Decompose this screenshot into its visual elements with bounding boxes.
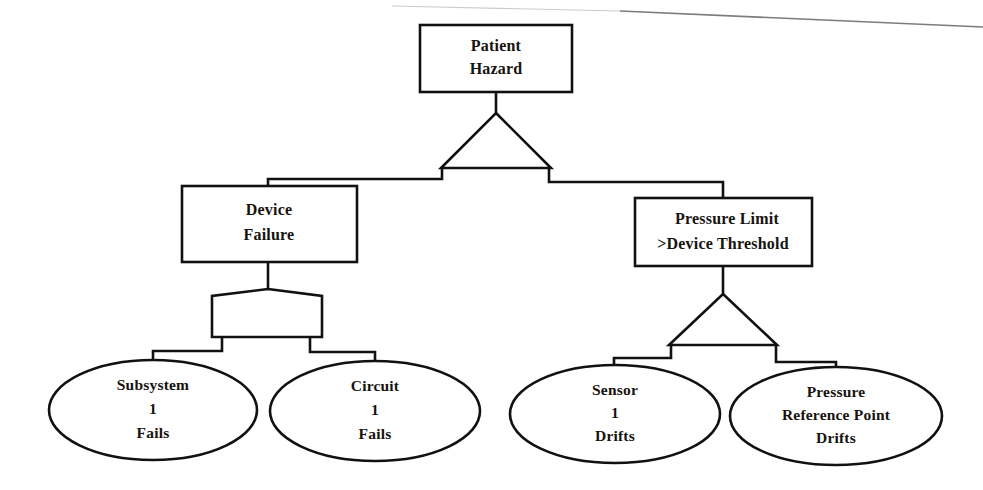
sensor-1-drifts-line1: Sensor — [592, 381, 638, 398]
pressure-reference-point-drifts-line1: Pressure — [807, 383, 866, 400]
fault-tree-canvas: Patient Hazard Device Failure Pressure L… — [0, 0, 983, 490]
connector-top-gate-to-device-failure — [268, 168, 442, 186]
node-pressure-limit[interactable]: Pressure Limit >Device Threshold — [635, 198, 812, 266]
sensor-1-drifts-line2: 1 — [611, 404, 619, 421]
circuit-1-fails-line1: Circuit — [351, 377, 400, 394]
node-patient-hazard[interactable]: Patient Hazard — [420, 25, 572, 92]
patient-hazard-label-line1: Patient — [471, 37, 522, 54]
pressure-limit-label-line1: Pressure Limit — [675, 210, 779, 227]
connector-device-gate-to-subsystem — [153, 337, 222, 361]
sensor-1-drifts-line3: Drifts — [595, 427, 635, 444]
patient-hazard-label-line2: Hazard — [470, 60, 523, 77]
leaf-circuit-1-fails[interactable]: Circuit 1 Fails — [270, 361, 480, 461]
leaf-sensor-1-drifts[interactable]: Sensor 1 Drifts — [510, 365, 720, 463]
connector-device-gate-to-circuit — [310, 337, 375, 362]
pressure-limit-box — [635, 198, 812, 266]
pressure-gate-triangle-shape — [669, 294, 777, 345]
subsystem-1-fails-line3: Fails — [137, 424, 170, 441]
subsystem-1-fails-line2: 1 — [149, 400, 157, 417]
node-device-failure[interactable]: Device Failure — [182, 186, 357, 262]
leaf-pressure-reference-point-drifts[interactable]: Pressure Reference Point Drifts — [730, 367, 942, 465]
top-gate-triangle-shape — [441, 113, 551, 168]
connector-top-gate-to-pressure-limit — [549, 168, 723, 198]
subsystem-1-fails-line1: Subsystem — [117, 376, 189, 393]
device-gate-pentagon-shape — [212, 289, 322, 337]
gate-pressure-triangle[interactable] — [669, 294, 777, 345]
leaf-subsystem-1-fails[interactable]: Subsystem 1 Fails — [49, 360, 257, 460]
device-failure-label-line2: Failure — [244, 226, 295, 243]
pressure-limit-label-line2: >Device Threshold — [657, 235, 789, 252]
pressure-reference-point-drifts-line3: Drifts — [816, 429, 856, 446]
pressure-reference-point-drifts-line2: Reference Point — [782, 406, 891, 423]
connector-pressure-gate-to-reference-point — [776, 345, 836, 369]
connector-pressure-gate-to-sensor — [614, 345, 671, 366]
circuit-1-fails-line3: Fails — [359, 425, 392, 442]
patient-hazard-box — [420, 25, 572, 92]
device-failure-label-line1: Device — [246, 201, 293, 218]
fault-tree-diagram: Patient Hazard Device Failure Pressure L… — [0, 0, 983, 490]
device-failure-box — [182, 186, 357, 262]
gate-top-triangle[interactable] — [441, 113, 551, 168]
circuit-1-fails-line2: 1 — [371, 401, 379, 418]
gate-device-pentagon[interactable] — [212, 289, 322, 337]
